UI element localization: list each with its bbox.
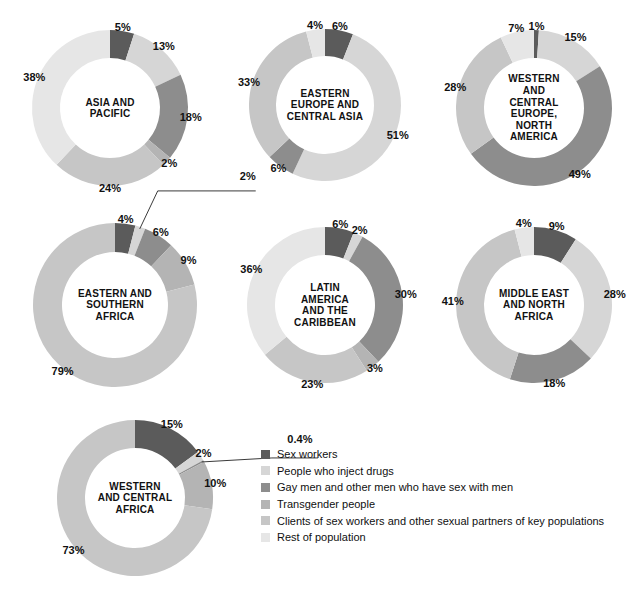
slice-percent-label: 7% <box>508 22 524 34</box>
slice-percent-label: 4% <box>118 213 134 225</box>
slice-percent-label: 28% <box>444 81 466 93</box>
donut-chart-western-and-central-africa: WESTERNAND CENTRALAFRICA15%2%10%73%0.4% <box>0 360 273 601</box>
legend-swatch-icon <box>261 516 270 525</box>
slice-percent-label: 73% <box>62 544 84 556</box>
donut-center-title: WESTERNAND CENTRALAFRICA <box>98 481 172 515</box>
donut-center-title: EASTERNEUROPE ANDCENTRAL ASIA <box>287 88 363 122</box>
donut-slice <box>456 37 513 153</box>
slice-percent-label: 15% <box>564 31 586 43</box>
legend-item-label: Clients of sex workers and other sexual … <box>277 515 604 527</box>
slice-percent-label: 6% <box>332 20 348 32</box>
legend-swatch-icon <box>261 483 270 492</box>
slice-percent-label: 33% <box>238 76 260 88</box>
legend: Sex workersPeople who inject drugsGay me… <box>261 446 633 546</box>
donut-slice <box>265 337 367 383</box>
donut-center-title: EASTERN ANDSOUTHERNAFRICA <box>78 288 152 322</box>
legend-item-label: Sex workers <box>277 448 338 460</box>
slice-percent-label: 18% <box>543 377 565 389</box>
legend-swatch-icon <box>261 466 270 475</box>
slice-percent-label: 3% <box>367 362 383 374</box>
slice-percent-label: 10% <box>204 477 226 489</box>
donut-chart-middle-east-and-north-africa: MIDDLE EASTAND NORTHAFRICA9%28%18%41%4% <box>396 167 640 443</box>
legend-item: Transgender people <box>261 496 633 513</box>
legend-item: Gay men and other men who have sex with … <box>261 479 633 496</box>
slice-percent-label: 6% <box>153 226 169 238</box>
slice-percent-label: 1% <box>529 20 545 32</box>
slice-percent-label: 15% <box>161 418 183 430</box>
slice-percent-label: 4% <box>516 217 532 229</box>
slice-percent-label: 6% <box>332 218 348 230</box>
legend-item-label: Gay men and other men who have sex with … <box>277 481 513 493</box>
slice-percent-label: 36% <box>240 263 262 275</box>
slice-percent-label: 41% <box>442 295 464 307</box>
callout-percent-label: 0.4% <box>287 433 312 445</box>
slice-percent-label: 9% <box>549 220 565 232</box>
donut-center-title: ASIA ANDPACIFIC <box>85 97 134 120</box>
legend-item-label: People who inject drugs <box>277 465 394 477</box>
legend-item: Sex workers <box>261 446 633 463</box>
slice-percent-label: 38% <box>23 71 45 83</box>
slice-percent-label: 23% <box>301 378 323 390</box>
donut-center-title: LATINAMERICAAND THECARIBBEAN <box>294 282 356 328</box>
legend-item: People who inject drugs <box>261 463 633 480</box>
slice-percent-label: 2% <box>196 447 212 459</box>
donut-center-title: MIDDLE EASTAND NORTHAFRICA <box>499 288 569 322</box>
slice-percent-label: 13% <box>153 40 175 52</box>
slice-percent-label: 5% <box>115 21 131 33</box>
slice-percent-label: 2% <box>352 224 368 236</box>
legend-swatch-icon <box>261 533 270 542</box>
slice-percent-label: 4% <box>307 19 323 31</box>
legend-item: Clients of sex workers and other sexual … <box>261 512 633 529</box>
slice-percent-label: 28% <box>604 288 626 300</box>
legend-swatch-icon <box>261 450 270 459</box>
legend-swatch-icon <box>261 500 270 509</box>
legend-item-label: Rest of population <box>277 531 366 543</box>
donut-center-title: WESTERNANDCENTRALEUROPE,NORTHAMERICA <box>508 73 559 142</box>
legend-item-label: Transgender people <box>277 498 375 510</box>
legend-item: Rest of population <box>261 529 633 546</box>
